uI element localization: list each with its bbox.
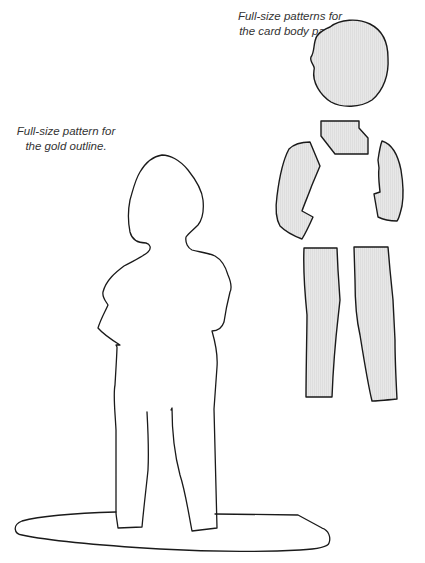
left-arm-piece [276, 142, 320, 239]
figure-outline [98, 155, 231, 531]
body-parts-group [276, 20, 403, 401]
left-leg-piece [304, 248, 340, 397]
torso-piece [321, 121, 368, 154]
base-outline [15, 512, 330, 551]
head-piece [311, 20, 388, 106]
right-leg-piece [354, 247, 397, 401]
right-arm-piece [374, 141, 403, 221]
pattern-artwork [0, 0, 425, 563]
